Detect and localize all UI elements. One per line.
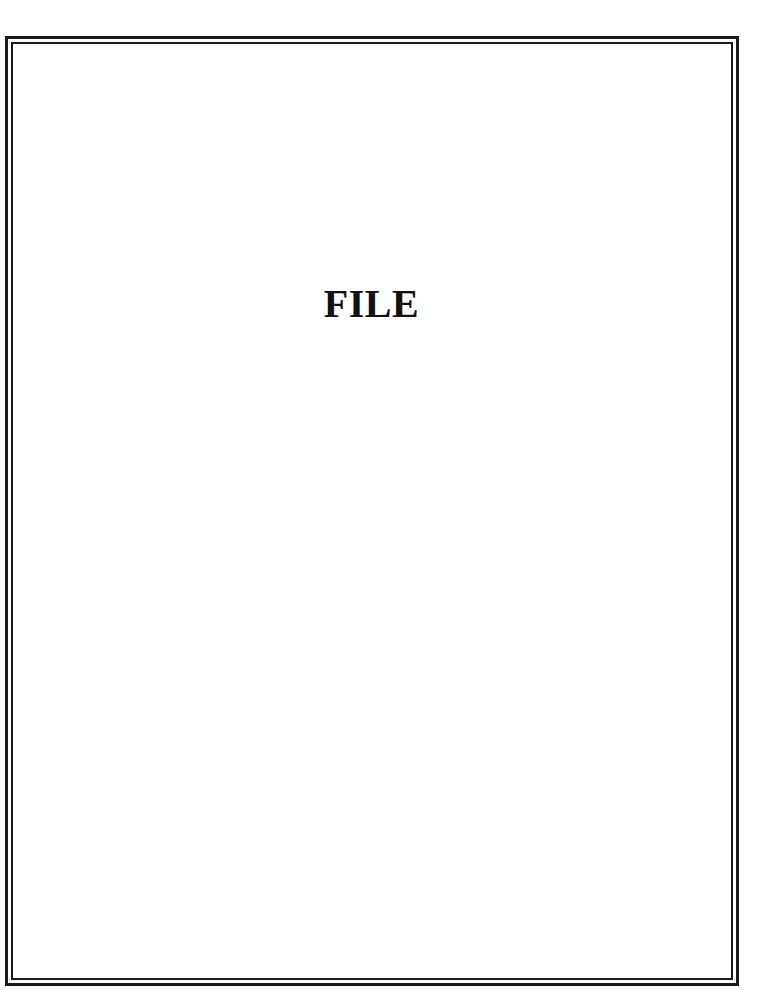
page-title: FILE: [0, 280, 743, 328]
inner-page-border: [11, 42, 733, 980]
